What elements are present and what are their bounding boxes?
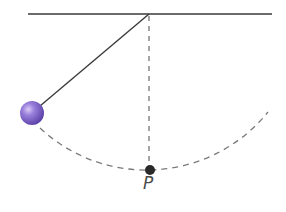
pendulum-string bbox=[40, 14, 149, 106]
pendulum-diagram: P bbox=[0, 0, 286, 212]
pendulum-bob bbox=[20, 101, 44, 125]
swing-arc bbox=[40, 112, 268, 170]
point-p-label: P bbox=[143, 175, 153, 192]
